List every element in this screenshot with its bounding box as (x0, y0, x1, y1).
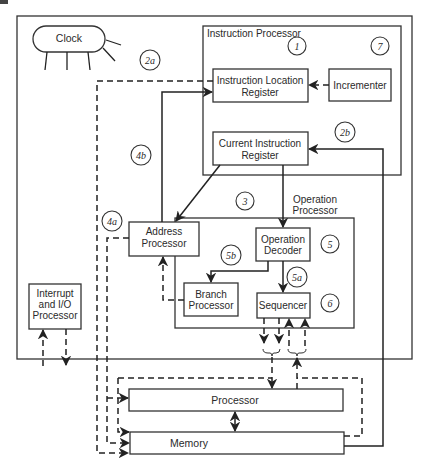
memory-bar-label: Memory (170, 437, 209, 449)
svg-text:6: 6 (328, 298, 333, 309)
step-marker-1: 1 (288, 37, 306, 55)
address-processor-to-ilr-arrow (162, 92, 212, 222)
processor-bar-label: Processor (211, 394, 259, 406)
operation-processor-title-line1: Operation (293, 194, 337, 205)
step-marker-4b: 4b (131, 145, 151, 165)
incrementer: Incrementer (329, 69, 391, 101)
interrupt-io-processor: Interrupt and I/O Processor (29, 284, 81, 329)
instruction-location-register: Instruction Location Register (213, 69, 308, 102)
step-marker-6: 6 (321, 294, 339, 312)
step-marker-5: 5 (321, 235, 339, 253)
instruction-cycle-diagram: Clock Instruction Processor Instruction … (0, 0, 429, 471)
sequencer-label: Sequencer (259, 300, 308, 311)
interrupt-line1: Interrupt (36, 288, 73, 299)
step-marker-4a: 4a (102, 211, 122, 231)
svg-text:4a: 4a (107, 216, 117, 227)
branch-processor-line1: Branch (195, 289, 227, 300)
ilr-label-line2: Register (241, 87, 279, 98)
step-marker-2b: 2b (335, 122, 355, 142)
current-instruction-register: Current Instruction Register (213, 132, 308, 165)
cir-to-address-processor-arrow (176, 165, 220, 221)
incrementer-label: Incrementer (333, 80, 387, 91)
brace-out-icon (263, 349, 280, 356)
branch-to-address-processor-arrow (163, 257, 184, 300)
address-processor-line1: Address (146, 226, 183, 237)
cir-label-line1: Current Instruction (219, 138, 301, 149)
control-to-memory-arrow (118, 378, 129, 432)
step-marker-2a: 2a (140, 50, 160, 70)
instruction-processor-title: Instruction Processor (207, 28, 302, 39)
svg-text:2a: 2a (145, 55, 155, 66)
step-marker-5a: 5a (287, 267, 307, 287)
interrupt-line2: and I/O (39, 299, 72, 310)
svg-text:5: 5 (328, 239, 333, 250)
interrupt-line3: Processor (32, 310, 78, 321)
clock-label: Clock (56, 32, 83, 44)
clock: Clock (33, 26, 121, 70)
svg-text:3: 3 (242, 196, 248, 207)
ilr-label-line1: Instruction Location (217, 75, 304, 86)
cir-label-line2: Register (241, 150, 279, 161)
address-processor: Address Processor (129, 222, 199, 256)
svg-text:5a: 5a (292, 272, 302, 283)
step-marker-7: 7 (371, 37, 389, 55)
brace-in-icon (288, 349, 306, 356)
svg-text:4b: 4b (136, 150, 146, 161)
svg-text:5b: 5b (226, 250, 236, 261)
memory-bar: Memory (130, 432, 344, 454)
operation-processor-title-line2: Processor (292, 205, 338, 216)
operation-decoder-line1: Operation (261, 234, 305, 245)
address-processor-line2: Processor (141, 238, 187, 249)
operation-decoder: Operation Decoder (256, 228, 310, 261)
svg-text:2b: 2b (340, 127, 350, 138)
branch-processor-line2: Processor (188, 300, 234, 311)
svg-text:1: 1 (295, 41, 300, 52)
processor-bar: Processor (129, 389, 343, 411)
branch-processor: Branch Processor (184, 283, 238, 316)
step-marker-5b: 5b (221, 245, 241, 265)
decoder-to-branch-arrow (211, 261, 268, 282)
operation-decoder-line2: Decoder (264, 245, 302, 256)
step-marker-3: 3 (236, 192, 254, 210)
corner-mark (0, 0, 8, 4)
sequencer: Sequencer (257, 293, 310, 318)
